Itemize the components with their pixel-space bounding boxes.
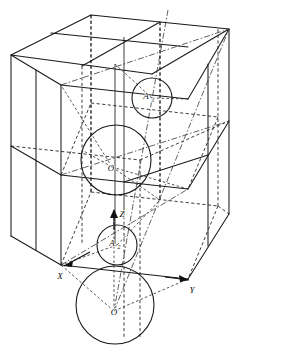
x-axis-arrowhead	[64, 261, 73, 267]
point-label-a-lower: A	[108, 238, 115, 248]
point-label-a-upper: A	[142, 91, 149, 101]
axis-label-x: X	[56, 271, 63, 281]
point-label-a-upper-subscript: 1	[152, 97, 155, 103]
radial-reference-rays	[61, 64, 188, 311]
label-group: X Y Z O O A 1 A 2	[56, 91, 195, 317]
sphere-corner-origin	[76, 266, 154, 344]
point-label-a-lower-subscript: 2	[118, 244, 121, 250]
figure-root: X Y Z O O A 1 A 2	[0, 0, 281, 352]
cube-internal-partitions	[36, 37, 124, 337]
cube-outer-solid-edges	[11, 15, 229, 279]
point-label-o-lower: O	[111, 307, 118, 317]
diagonal-construction-lines	[61, 10, 229, 311]
axis-label-z: Z	[119, 209, 125, 219]
coordinate-axes	[64, 209, 189, 282]
lattice-diagram: X Y Z O O A 1 A 2	[0, 0, 281, 352]
axis-label-y: Y	[189, 285, 195, 295]
cube-mid-horizontal-slice	[11, 121, 229, 337]
point-label-o-centre: O	[108, 163, 115, 173]
z-axis-arrowhead	[110, 209, 118, 218]
